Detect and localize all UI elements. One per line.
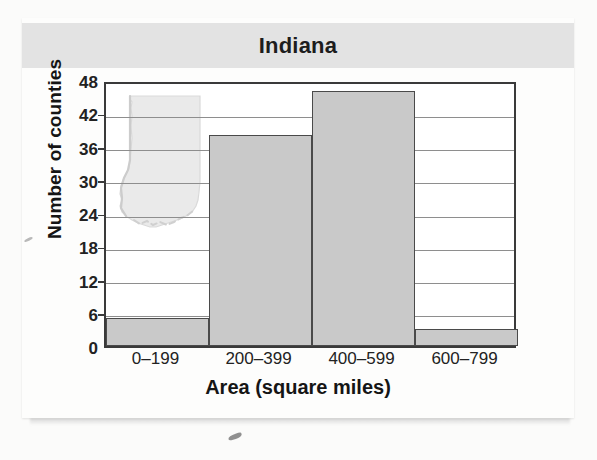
y-tick-label: 48 (64, 74, 98, 91)
y-tick-label: 18 (64, 240, 98, 257)
x-tick-label: 0–199 (104, 350, 207, 367)
chart-title: Indiana (22, 23, 574, 68)
bar-600-799[interactable] (415, 329, 518, 346)
y-axis-title: Number of counties (44, 39, 66, 259)
bar-0-199[interactable] (106, 318, 209, 346)
card-shadow-band (30, 418, 570, 425)
x-tick-label: 400–599 (310, 350, 413, 367)
y-tick-label: 0 (64, 340, 98, 357)
x-tick-label: 600–799 (413, 350, 516, 367)
title-band: Indiana (22, 23, 574, 68)
plot-area (104, 82, 516, 348)
x-axis-title: Area (square miles) (22, 376, 574, 399)
y-tick-label: 42 (64, 107, 98, 124)
bar-400-599[interactable] (312, 91, 415, 346)
figure-card: Indiana 0612182430364248 Number of count… (22, 18, 574, 418)
y-tick-label: 36 (64, 141, 98, 158)
y-tick-label: 6 (64, 307, 98, 324)
gridline (106, 117, 514, 118)
y-tick-label: 30 (64, 174, 98, 191)
y-tick-label: 24 (64, 207, 98, 224)
x-tick-label: 200–399 (207, 350, 310, 367)
bar-200-399[interactable] (209, 135, 312, 346)
x-axis-ticks: 0–199200–399400–599600–799 (104, 350, 516, 376)
y-tick-label: 12 (64, 274, 98, 291)
